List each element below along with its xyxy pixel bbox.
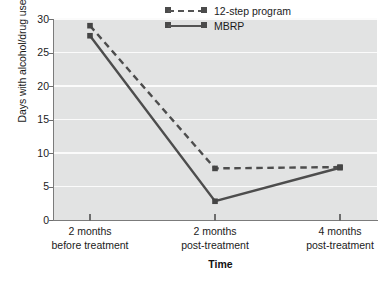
x-axis-tick-mark: [339, 214, 340, 221]
x-axis-tick-label-line: 4 months: [275, 225, 391, 239]
legend-item-12-step-program: 12-step program: [165, 4, 291, 18]
y-axis-tick-mark: [49, 86, 53, 87]
series-line-solid: [90, 36, 340, 201]
y-axis-tick-mark: [49, 153, 53, 154]
data-point-marker: [212, 198, 218, 204]
x-axis-tick-label-line: 2 months: [150, 225, 280, 239]
y-axis-tick-mark: [49, 53, 53, 54]
series-line-dashed: [90, 26, 340, 169]
x-axis-tick-label-line: before treatment: [25, 239, 155, 253]
x-axis-tick-label-line: post-treatment: [150, 239, 280, 253]
legend-item-mbrp: MBRP: [165, 19, 291, 33]
y-axis-tick-mark: [49, 120, 53, 121]
legend-label: 12-step program: [214, 5, 291, 17]
x-axis-tick-label: 2 monthspost-treatment: [150, 225, 280, 252]
x-axis-tick-label-line: post-treatment: [275, 239, 391, 253]
line-chart: Days with alcohol/drug use 051015202530 …: [0, 0, 391, 281]
x-axis-tick-mark: [214, 214, 215, 221]
data-point-marker: [337, 165, 343, 171]
legend-dashed-line-icon: [165, 5, 207, 17]
x-axis-tick-label-line: 2 months: [25, 225, 155, 239]
y-axis-tick-mark: [49, 187, 53, 188]
y-axis-tick-mark: [49, 19, 53, 20]
x-axis-tick-label: 4 monthspost-treatment: [275, 225, 391, 252]
legend: 12-step program MBRP: [165, 4, 291, 34]
data-point-marker: [87, 23, 93, 29]
y-axis-tick-mark: [49, 220, 53, 221]
data-point-marker: [87, 33, 93, 39]
x-axis-tick-mark: [89, 214, 90, 221]
data-point-marker: [212, 166, 218, 172]
legend-label: MBRP: [214, 20, 244, 32]
x-axis-title: Time: [0, 258, 391, 270]
legend-solid-line-icon: [165, 20, 207, 32]
x-axis-tick-label: 2 monthsbefore treatment: [25, 225, 155, 252]
